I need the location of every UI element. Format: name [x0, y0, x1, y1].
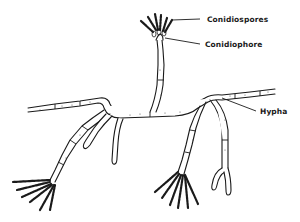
center-spore-cluster [155, 172, 198, 208]
conidiophore-leader [165, 38, 200, 44]
hypha-leader [222, 98, 256, 111]
left-spore-cluster [13, 180, 55, 210]
mycelium-drawing [0, 0, 300, 222]
center-branch [112, 118, 123, 164]
mycelium-diagram: Conidiospores Conidiophore Hypha [0, 0, 300, 222]
label-conidiospores: Conidiospores [207, 15, 268, 24]
label-hypha: Hypha [260, 107, 287, 116]
top-spore-cluster [141, 14, 172, 37]
label-conidiophore: Conidiophore [205, 40, 263, 49]
right-fork-branch [210, 100, 231, 195]
conidiospores-leader [172, 19, 200, 20]
